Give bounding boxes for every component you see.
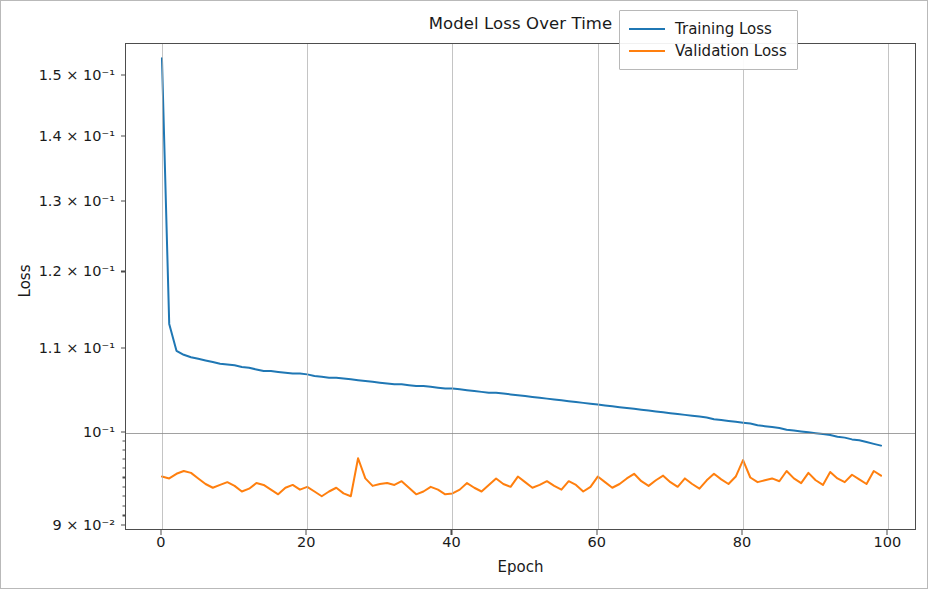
y-tick-label: 1.2 × 10⁻¹	[39, 263, 115, 279]
y-tick-label: 9 × 10⁻²	[52, 517, 115, 533]
x-tick-label: 40	[442, 534, 460, 550]
x-gridline	[162, 44, 163, 529]
y-tick-mark	[121, 74, 125, 75]
legend-label: Training Loss	[675, 20, 772, 38]
y-tick-mark	[121, 135, 125, 136]
x-tick-label: 0	[156, 534, 165, 550]
x-tick-label: 60	[588, 534, 606, 550]
series-line	[162, 58, 881, 445]
y-minor-tick-mark	[123, 515, 126, 516]
y-tick-mark	[121, 525, 125, 526]
x-tick-mark	[596, 530, 597, 535]
chart-figure: Model Loss Over Time Loss 9 × 10⁻²10⁻¹1.…	[0, 0, 928, 589]
series-line	[162, 458, 881, 496]
y-gridline	[126, 433, 915, 434]
y-minor-tick-mark	[123, 450, 126, 451]
legend-color-swatch-training	[629, 28, 665, 30]
y-minor-tick-mark	[123, 505, 126, 506]
y-tick-label: 1.5 × 10⁻¹	[39, 67, 115, 83]
legend-item[interactable]: Training Loss	[629, 18, 787, 40]
x-tick-mark	[160, 530, 161, 535]
plot-area	[125, 43, 916, 530]
x-gridline	[452, 44, 453, 529]
x-tick-label: 80	[733, 534, 751, 550]
y-tick-mark	[121, 432, 125, 433]
y-minor-tick-mark	[123, 496, 126, 497]
y-tick-label: 1.3 × 10⁻¹	[39, 193, 115, 209]
y-tick-label: 1.1 × 10⁻¹	[39, 340, 115, 356]
x-gridline	[743, 44, 744, 529]
y-minor-tick-mark	[123, 441, 126, 442]
y-tick-mark	[121, 348, 125, 349]
y-tick-mark	[121, 271, 125, 272]
y-minor-tick-mark	[123, 477, 126, 478]
y-tick-label: 1.4 × 10⁻¹	[39, 128, 115, 144]
legend: Training Loss Validation Loss	[619, 10, 798, 70]
x-axis-label: Epoch	[125, 558, 916, 576]
x-tick-mark	[451, 530, 452, 535]
legend-label: Validation Loss	[675, 42, 787, 60]
x-gridline	[598, 44, 599, 529]
y-minor-tick-mark	[123, 459, 126, 460]
x-tick-label: 20	[297, 534, 315, 550]
series-lines	[126, 44, 917, 531]
x-axis-tick-labels: 020406080100	[125, 534, 916, 558]
x-gridline	[888, 44, 889, 529]
y-tick-label: 10⁻¹	[83, 424, 115, 440]
y-minor-tick-mark	[123, 468, 126, 469]
legend-item[interactable]: Validation Loss	[629, 40, 787, 62]
y-tick-mark	[121, 200, 125, 201]
x-gridline	[307, 44, 308, 529]
y-minor-tick-mark	[123, 486, 126, 487]
y-axis-tick-labels: 9 × 10⁻²10⁻¹1.1 × 10⁻¹1.2 × 10⁻¹1.3 × 10…	[1, 43, 115, 530]
legend-color-swatch-validation	[629, 50, 665, 52]
x-tick-mark	[887, 530, 888, 535]
x-tick-mark	[306, 530, 307, 535]
x-tick-label: 100	[873, 534, 901, 550]
x-tick-mark	[742, 530, 743, 535]
